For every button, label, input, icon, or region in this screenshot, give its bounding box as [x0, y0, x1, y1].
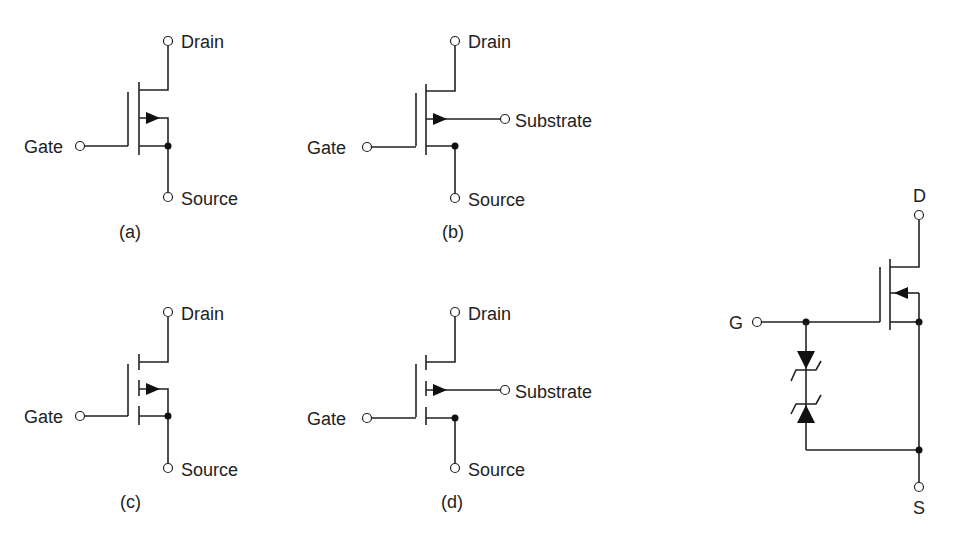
- body-wire: [139, 118, 168, 146]
- drain-terminal: [164, 37, 173, 46]
- symbol-b: Drain Gate Substrate Source (b): [307, 32, 592, 242]
- body-wire: [139, 389, 168, 416]
- gate-label: Gate: [307, 138, 346, 158]
- gate-terminal: [76, 142, 85, 151]
- junction-dot: [165, 413, 172, 420]
- gate-label: G: [729, 313, 743, 333]
- drain-label: Drain: [468, 304, 511, 324]
- drain-wire: [426, 317, 455, 362]
- gate-label: Gate: [24, 407, 63, 427]
- gate-terminal: [76, 412, 85, 421]
- source-label: Source: [468, 460, 525, 480]
- gate-terminal: [363, 414, 372, 423]
- source-terminal: [915, 483, 924, 492]
- zener-diode-down-icon: [797, 351, 815, 369]
- symbol-a: Drain Gate Source (a): [24, 32, 238, 242]
- source-wire: [426, 146, 455, 193]
- caption-b: (b): [442, 222, 464, 242]
- source-wire: [139, 146, 168, 193]
- body-arrow-icon: [146, 383, 160, 395]
- body-arrow-icon: [146, 112, 160, 124]
- caption-c: (c): [120, 492, 141, 512]
- zener-diode-up-icon: [797, 405, 815, 423]
- body-arrow-icon: [894, 287, 908, 299]
- symbol-zener-protected: D G S: [729, 186, 926, 518]
- body-arrow-icon: [433, 113, 447, 125]
- source-terminal: [164, 464, 173, 473]
- body-arrow-icon: [433, 384, 447, 396]
- source-label: Source: [181, 189, 238, 209]
- source-terminal: [451, 194, 460, 203]
- mosfet-symbols-figure: Drain Gate Source (a) Drain Gate Substra…: [0, 0, 960, 540]
- source-terminal: [164, 193, 173, 202]
- caption-d: (d): [441, 492, 463, 512]
- drain-terminal: [451, 37, 460, 46]
- junction-dot: [165, 143, 172, 150]
- substrate-label: Substrate: [515, 111, 592, 131]
- drain-terminal: [164, 308, 173, 317]
- drain-wire: [139, 317, 168, 362]
- source-label: S: [913, 498, 925, 518]
- drain-wire: [426, 46, 455, 91]
- drain-terminal: [451, 308, 460, 317]
- drain-terminal: [915, 211, 924, 220]
- gate-label: Gate: [24, 137, 63, 157]
- substrate-terminal: [501, 115, 510, 124]
- source-label: Source: [468, 190, 525, 210]
- source-terminal: [451, 464, 460, 473]
- junction-dot: [916, 447, 923, 454]
- caption-a: (a): [119, 222, 141, 242]
- drain-wire: [890, 220, 919, 267]
- source-wire: [426, 418, 455, 464]
- junction-dot: [452, 143, 459, 150]
- drain-label: D: [913, 186, 926, 206]
- drain-label: Drain: [181, 32, 224, 52]
- gate-terminal: [753, 318, 762, 327]
- symbol-c: Drain Gate Source (c): [24, 304, 238, 512]
- gate-terminal: [363, 143, 372, 152]
- substrate-terminal: [501, 386, 510, 395]
- drain-label: Drain: [468, 32, 511, 52]
- source-wire: [139, 416, 168, 464]
- symbol-d: Drain Gate Substrate Source (d): [307, 304, 592, 512]
- substrate-label: Substrate: [515, 382, 592, 402]
- source-label: Source: [181, 460, 238, 480]
- gate-label: Gate: [307, 409, 346, 429]
- drain-label: Drain: [181, 304, 224, 324]
- junction-dot: [452, 415, 459, 422]
- drain-wire: [139, 46, 168, 90]
